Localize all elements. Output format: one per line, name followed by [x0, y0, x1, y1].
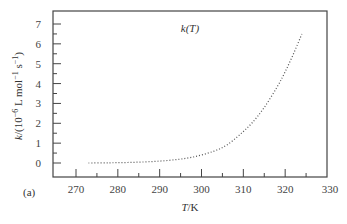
- y-tick-label: 7: [36, 18, 42, 30]
- data-series: [89, 34, 302, 163]
- y-tick-label: 1: [36, 137, 42, 149]
- x-tick-label: 300: [193, 183, 210, 195]
- x-axis-ticks: 270280290300310320330: [68, 169, 339, 195]
- panel-label: (a): [23, 186, 36, 199]
- chart-root: 01234567 270280290300310320330 k(T) T/K …: [0, 0, 347, 224]
- chart-title: k(T): [181, 22, 200, 35]
- x-axis-label: T/K: [181, 201, 198, 213]
- y-tick-label: 3: [36, 97, 42, 109]
- y-tick-label: 0: [36, 157, 42, 169]
- y-tick-label: 6: [36, 38, 42, 50]
- y-axis-label: k/(10−6 L mol−1 s−1): [11, 52, 25, 140]
- plot-frame: [53, 11, 327, 177]
- y-axis-ticks: 01234567: [36, 18, 62, 169]
- y-tick-label: 4: [36, 78, 42, 90]
- y-tick-label: 2: [36, 117, 42, 129]
- x-tick-label: 320: [277, 183, 294, 195]
- x-tick-label: 310: [235, 183, 252, 195]
- y-tick-label: 5: [36, 58, 42, 70]
- series-line: [89, 34, 302, 163]
- x-tick-label: 280: [110, 183, 127, 195]
- x-tick-label: 330: [322, 183, 339, 195]
- x-tick-label: 270: [68, 183, 85, 195]
- x-tick-label: 290: [151, 183, 168, 195]
